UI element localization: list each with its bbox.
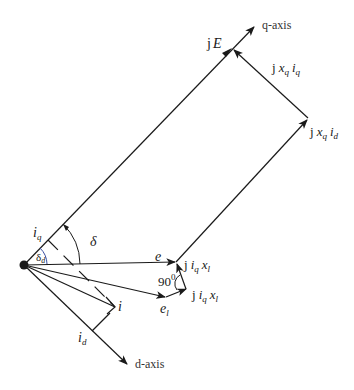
jxq-iq-label: jxqiq [271,60,301,77]
jiq-xl-lower-label: jiqxl [191,287,219,304]
jxq-iq-phasor [234,50,308,118]
iq-label: iq [33,225,42,242]
d-axis [24,265,127,364]
el-phasor [24,265,165,297]
jE-label: jE [206,36,222,51]
el-label: el [160,301,169,318]
id-projection-dashed [92,313,110,331]
origin-point [20,261,29,270]
i-phasor [24,265,115,314]
jxq-id-phasor [176,120,307,262]
jxq-id-label: jxqid [309,124,339,141]
q-axis-label: q-axis [262,18,292,32]
right-angle-arc [175,275,180,290]
jiq-xl-upper-label: jiqxl [183,257,211,274]
i-label: i [118,299,122,314]
d-axis-label: d-axis [135,357,165,371]
delta-d-label: δd [36,251,46,265]
id-label: id [78,330,87,347]
q-axis [24,27,254,265]
jiq-xl-lower-phasor [166,289,186,297]
phasor-diagram: q-axis d-axis jE jxqiq jxqid iq δ δd e e… [0,0,354,390]
e-label: e [155,249,161,264]
right-angle-label: 900 [158,272,176,289]
delta-label: δ [90,234,97,249]
